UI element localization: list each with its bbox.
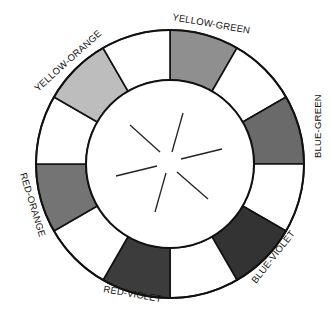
label-blue-green: BLUE-GREEN bbox=[312, 94, 323, 158]
color-wheel-diagram: YELLOW-GREEN YELLOW-ORANGE BLUE-GREEN BL… bbox=[0, 0, 334, 315]
inner-circle bbox=[86, 80, 254, 248]
